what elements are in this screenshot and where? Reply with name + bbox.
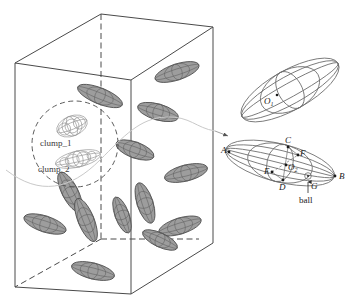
upper-ellipsoid-outline	[232, 46, 348, 134]
ball-label: ball	[299, 195, 313, 205]
particle	[163, 160, 210, 186]
particle	[70, 258, 117, 284]
clump-1-label: clump_1	[40, 138, 72, 148]
particle	[75, 80, 125, 113]
upper-ellipsoid-center-label: O1	[264, 96, 274, 107]
ball-center-dot	[307, 175, 309, 177]
particle	[131, 181, 159, 226]
rectangular-box	[15, 14, 213, 294]
particle	[136, 99, 181, 126]
upper-ellipsoid-equator	[239, 57, 342, 123]
upper-ellipsoid: O1	[232, 46, 348, 134]
diagram-svg: clump_1 clump_2 O1	[0, 0, 354, 298]
leader-arrow	[215, 131, 228, 136]
vertex-label-A: A	[220, 145, 227, 155]
clump-callout: clump_1 clump_2	[32, 101, 118, 187]
particle	[70, 196, 102, 245]
upper-ellipsoid-parallel	[235, 51, 345, 129]
lower-ellipsoid-center-label: O2	[288, 162, 298, 173]
upper-ellipsoid-center-dot	[276, 94, 279, 97]
particle	[22, 210, 69, 239]
clump-2-label: clump_2	[38, 164, 70, 174]
box-visible-edges	[15, 14, 213, 294]
lower-ellipsoid: A B C D E F G O2 ball	[220, 131, 345, 205]
vertex-label-G: G	[311, 181, 318, 191]
vertex-label-B: B	[339, 171, 345, 181]
clump-1-shape	[53, 111, 90, 142]
vertex-label-C: C	[285, 135, 292, 145]
vertex-label-D: D	[278, 182, 286, 192]
vertex-label-E: E	[263, 166, 270, 176]
figure-canvas: clump_1 clump_2 O1	[0, 0, 354, 298]
vertex-label-F: F	[299, 148, 306, 158]
